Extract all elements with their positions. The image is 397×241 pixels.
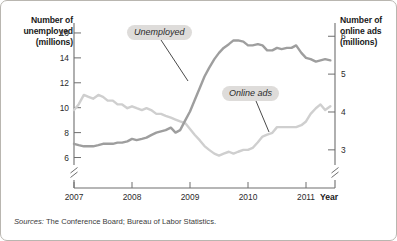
right-axis-title-line1: Number of — [340, 15, 397, 26]
annotation-leader-online-ads — [256, 101, 269, 132]
x-tick-label-2007: 2007 — [57, 192, 91, 202]
right-tick-label-6: 6 — [341, 31, 359, 41]
left-tick-label-14: 14 — [51, 53, 69, 63]
series-line-online-ads — [74, 95, 330, 156]
x-tick-label-2009: 2009 — [173, 192, 207, 202]
left-tick-label-16: 16 — [51, 28, 69, 38]
right-axis-line — [332, 23, 339, 188]
left-axis-title-line3: (millions) — [9, 37, 73, 48]
right-tick-label-3: 3 — [341, 145, 359, 155]
x-tick-label-2008: 2008 — [115, 192, 149, 202]
annotation-leader-unemployed — [161, 40, 188, 81]
left-tick-label-10: 10 — [51, 103, 69, 113]
right-tick-label-5: 5 — [341, 69, 359, 79]
left-axis-ticks — [74, 33, 81, 158]
source-note: Sources: The Conference Board; Bureau of… — [14, 217, 216, 226]
series-line-unemployed — [74, 40, 330, 146]
source-note-prefix: Sources: — [14, 217, 44, 226]
x-axis-title: Year — [305, 192, 353, 203]
series-annotation-unemployed: Unemployed — [127, 25, 192, 40]
series-annotation-online-ads: Online ads — [222, 86, 279, 101]
left-tick-label-8: 8 — [51, 128, 69, 138]
left-tick-label-12: 12 — [51, 78, 69, 88]
x-tick-label-2010: 2010 — [231, 192, 265, 202]
right-axis-ticks — [328, 36, 335, 150]
left-tick-label-6: 6 — [51, 153, 69, 163]
x-axis-line — [74, 182, 335, 188]
left-axis-title-line1: Number of — [9, 15, 73, 26]
source-note-text: The Conference Board; Bureau of Labor St… — [46, 217, 216, 226]
right-tick-label-4: 4 — [341, 107, 359, 117]
chart-figure: Number of unemployed (millions) Number o… — [0, 0, 397, 241]
